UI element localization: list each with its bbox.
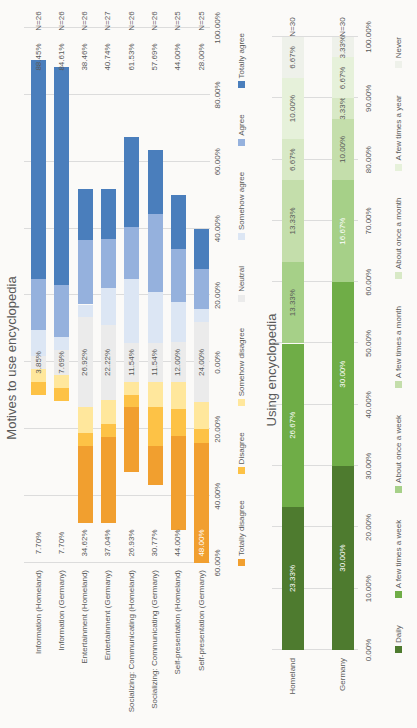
neutral-label: 12.00% [173, 340, 182, 384]
axis-tick-label: 40.00% [213, 474, 222, 518]
legend-label: Disagree [237, 432, 246, 464]
value-label: 10.00% [338, 127, 347, 171]
value-label: 10.00% [288, 87, 297, 131]
bar-segment-totally_agree [171, 195, 186, 249]
agree-total-label: 88.45% [34, 35, 43, 79]
legend-label: About once a month [394, 197, 403, 269]
axis-tick-label: 0.00% [213, 340, 222, 384]
category-label: Socializing: Communicating (Germany) [150, 570, 159, 726]
agree-total-label: 44.00% [173, 35, 182, 79]
legend-label: A few times a year [394, 95, 403, 160]
axis-tick-label: 0.00% [364, 628, 373, 672]
chart-using-title: Using encyclopedia [264, 90, 279, 650]
value-label: 30.00% [338, 352, 347, 396]
bar-segment-disagree [148, 407, 163, 446]
axis-tick-label: 90.00% [364, 76, 373, 120]
legend-item: About once a week [394, 415, 403, 493]
bar-segment-disagree [101, 424, 116, 436]
bar-segment-disagree [124, 395, 139, 408]
bar-segment-agree [171, 249, 186, 303]
axis-tick-label: 10.00% [364, 567, 373, 611]
neutral-label: 3.85% [34, 340, 43, 384]
legend-label: About once a week [394, 415, 403, 483]
legend-item: About once a month [394, 197, 403, 279]
row-label: Germany [338, 658, 347, 726]
disagree-total-label: 7.70% [57, 521, 66, 565]
bar-segment-somehow_disagree [78, 407, 93, 433]
bar-segment-disagree [54, 388, 69, 401]
bar-segment-somehow_agree [194, 309, 209, 322]
legend-swatch [395, 646, 402, 653]
neutral-label: 26.92% [80, 340, 89, 384]
n-label: N=26 [57, 1, 66, 41]
value-label: 6.67% [288, 138, 297, 182]
n-label: N=27 [103, 1, 112, 41]
bar-segment-totally_agree [194, 229, 209, 269]
agree-total-label: 84.61% [57, 35, 66, 79]
bar-segment-agree [54, 285, 69, 336]
legend-label: Agree [237, 114, 246, 135]
bar-segment-totally_disagree [171, 436, 186, 530]
legend-swatch [238, 139, 245, 146]
legend-item: Somehow agree [237, 172, 246, 240]
legend-swatch [395, 486, 402, 493]
disagree-total-label: 26.93% [127, 521, 136, 565]
legend-swatch [238, 295, 245, 302]
legend-item: Totally agree [237, 33, 246, 88]
n-label: N=25 [197, 1, 206, 41]
legend-item: A few times a month [394, 306, 403, 388]
legend-swatch [238, 559, 245, 566]
legend-item: Agree [237, 114, 246, 145]
axis-tick-label: 40.00% [364, 383, 373, 427]
bar-segment-agree [31, 279, 46, 330]
category-label: Socializing: Communicating (Homeland) [127, 570, 136, 726]
gridline [24, 94, 210, 95]
value-label: 23.33% [288, 557, 297, 601]
axis-tick-label: 60.00% [213, 140, 222, 184]
bar-segment-somehow_disagree [194, 403, 209, 430]
category-label: Entertainment (Germany) [103, 570, 112, 726]
legend-swatch [238, 467, 245, 474]
bar-segment-disagree [171, 409, 186, 436]
bar-segment-disagree [194, 429, 209, 442]
n-label: N=26 [80, 1, 89, 41]
legend-label: Totally agree [237, 33, 246, 78]
bar-segment-totally_agree [124, 137, 139, 227]
legend-using: DailyA few times a weekAbout once a week… [394, 37, 403, 653]
chart-motives-title: Motives to use encyclopedia [4, 148, 19, 568]
agree-total-label: 38.46% [80, 35, 89, 79]
value-label: 16.67% [338, 209, 347, 253]
disagree-total-label: 30.77% [150, 521, 159, 565]
neutral-label: 22.22% [103, 340, 112, 384]
legend-label: Somehow agree [237, 172, 246, 230]
bar-segment-disagree [78, 433, 93, 446]
legend-item: Never [394, 37, 403, 68]
value-label: 30.00% [338, 536, 347, 580]
category-label: Information (Homeland) [34, 570, 43, 726]
bar-segment-totally_disagree [78, 446, 93, 523]
legend-label: Totally disagree [237, 500, 246, 556]
value-label: 13.33% [288, 199, 297, 243]
bar-segment-totally_disagree [101, 437, 116, 524]
neutral-label: 11.54% [127, 340, 136, 384]
legend-item: Daily [394, 625, 403, 653]
legend-swatch [395, 272, 402, 279]
legend-label: Daily [394, 625, 403, 643]
bar-segment-somehow_agree [101, 288, 116, 325]
value-label: 13.33% [288, 281, 297, 325]
bar-segment-totally_disagree [124, 407, 139, 471]
axis-tick-label: 20.00% [213, 407, 222, 451]
disagree-total-label: 34.62% [80, 521, 89, 565]
neutral-label: 24.00% [197, 340, 206, 384]
legend-item: A few times a year [394, 95, 403, 170]
legend-motives: Totally disagreeDisagreeSomehow disagree… [237, 33, 246, 566]
neutral-label: 11.54% [150, 340, 159, 384]
n-label: N=30 [288, 7, 297, 47]
axis-tick-label: 60.00% [364, 260, 373, 304]
chart-motives: Motives to use encyclopedia 60.00%40.00%… [0, 0, 260, 728]
category-label: Self-presentation (Homeland) [173, 570, 182, 726]
axis-tick-label: 70.00% [364, 199, 373, 243]
bar-segment-totally_disagree [148, 446, 163, 485]
legend-item: Totally disagree [237, 500, 246, 566]
n-label: N=26 [150, 1, 159, 41]
